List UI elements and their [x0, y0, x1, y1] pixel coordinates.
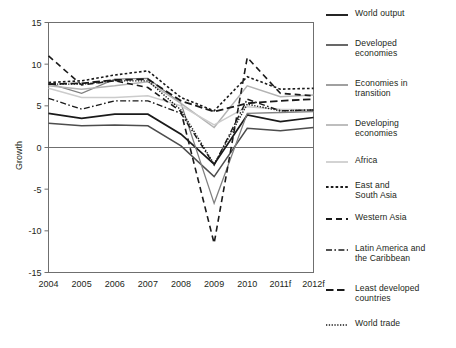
legend-key-dashdot	[325, 245, 349, 257]
legend-item-label: World output	[355, 8, 405, 18]
legend-item-label: East and South Asia	[355, 180, 397, 201]
legend-key-solid-darkgray	[325, 40, 349, 52]
svg-text:2010: 2010	[237, 279, 257, 289]
legend-key-dotted	[325, 182, 349, 194]
svg-text:-15: -15	[28, 268, 41, 278]
legend-item-1[interactable]: Developed economies	[325, 38, 397, 59]
legend-key-solid-black	[325, 10, 349, 22]
svg-text:0: 0	[36, 143, 41, 153]
legend-item-4[interactable]: Africa	[325, 155, 377, 169]
svg-text:5: 5	[36, 101, 41, 111]
chart-tick-labels: 151050-5-10-1520042005200620072008200920…	[28, 18, 325, 289]
series-line-1	[49, 123, 314, 176]
legend-item-5[interactable]: East and South Asia	[325, 180, 397, 201]
legend-key-longdash	[325, 285, 349, 297]
legend-item-label: Africa	[355, 155, 377, 165]
legend-item-8[interactable]: Least developed countries	[325, 283, 419, 304]
svg-text:2005: 2005	[72, 279, 92, 289]
svg-text:2011f: 2011f	[269, 279, 291, 289]
legend-item-label: Latin America and the Caribbean	[355, 243, 425, 264]
legend-item-3[interactable]: Developing economies	[325, 118, 399, 139]
legend-key-solid-lightgray	[325, 120, 349, 132]
chart-axes	[45, 23, 314, 273]
legend-item-label: Developing economies	[355, 118, 399, 139]
legend-key-dashed	[325, 214, 349, 226]
y-axis-title: Growth	[14, 140, 24, 169]
legend-item-7[interactable]: Latin America and the Caribbean	[325, 243, 425, 264]
legend-item-9[interactable]: World trade	[325, 318, 400, 332]
svg-text:2004: 2004	[38, 279, 58, 289]
legend-key-finedotted	[325, 320, 349, 332]
legend-item-label: Least developed countries	[355, 283, 419, 304]
legend-item-2[interactable]: Economies in transition	[325, 78, 408, 99]
chart-legend: World outputDeveloped economiesEconomies…	[325, 0, 456, 348]
series-line-0	[49, 113, 314, 164]
legend-item-0[interactable]: World output	[325, 8, 405, 22]
svg-text:10: 10	[31, 60, 41, 70]
legend-key-solid-lightergray	[325, 157, 349, 169]
svg-text:2007: 2007	[138, 279, 158, 289]
series-line-7	[49, 98, 314, 165]
svg-text:2009: 2009	[204, 279, 224, 289]
legend-item-label: World trade	[355, 318, 400, 328]
chart-figure: 151050-5-10-1520042005200620072008200920…	[0, 0, 456, 348]
svg-text:-10: -10	[28, 226, 41, 236]
legend-item-label: Economies in transition	[355, 78, 408, 99]
legend-item-label: Western Asia	[355, 212, 407, 222]
chart-series-layer	[49, 56, 314, 244]
svg-text:15: 15	[31, 18, 41, 28]
svg-text:2006: 2006	[105, 279, 125, 289]
legend-item-label: Developed economies	[355, 38, 397, 59]
legend-key-solid-gray	[325, 80, 349, 92]
svg-text:-5: -5	[33, 185, 41, 195]
series-line-9	[49, 81, 314, 164]
svg-text:2008: 2008	[171, 279, 191, 289]
svg-text:2012f: 2012f	[302, 279, 325, 289]
legend-item-6[interactable]: Western Asia	[325, 212, 407, 226]
